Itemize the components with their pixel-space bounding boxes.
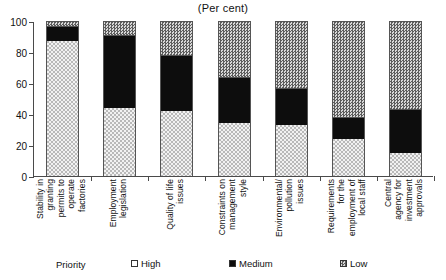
bar-segment-low (276, 21, 307, 88)
y-axis-tick (29, 115, 34, 116)
bar-segment-high (104, 108, 135, 176)
y-axis-tick (29, 84, 34, 85)
legend-swatch-high-icon (131, 260, 138, 267)
bar-segment-medium (333, 117, 364, 139)
y-axis-tick (29, 146, 34, 147)
bar-segment-high (47, 41, 78, 176)
bar-stack (218, 21, 251, 176)
x-axis-category-label-line: Constraints on (218, 179, 228, 235)
legend-label-medium: Medium (239, 258, 273, 269)
y-axis-tick-label: 100 (10, 17, 27, 28)
bar-segment-low (47, 21, 78, 26)
legend-title: Priority (56, 259, 86, 270)
bar-segment-low (219, 21, 250, 77)
bar-stack (160, 21, 193, 176)
bar-stack (46, 21, 79, 176)
x-axis-category-label-line: Quality of life (166, 179, 176, 230)
bar-segment-medium (219, 77, 250, 124)
bar-segment-low (333, 21, 364, 117)
legend-item-medium: Medium (229, 258, 273, 269)
x-axis-category-label-line: management (228, 179, 238, 230)
bar-segment-medium (104, 35, 135, 108)
y-axis-tick-label: 60 (16, 79, 27, 90)
x-axis-category-label-line: investment (405, 179, 415, 221)
bar-segment-low (104, 21, 135, 35)
y-axis-tick (29, 53, 34, 54)
x-axis-category-label-line: for the (337, 179, 347, 204)
bar-segment-high (390, 153, 421, 176)
bar-segment-medium (390, 109, 421, 152)
bar-stack (275, 21, 308, 176)
bar-segment-high (333, 139, 364, 176)
legend-item-low: Low (340, 258, 367, 269)
bar-segment-low (161, 21, 192, 55)
x-axis-category-label-line: local staff (358, 179, 368, 216)
bar-segment-medium (47, 26, 78, 42)
x-axis-category-label-line: Central (384, 179, 394, 207)
x-axis-category-label-line: Requirements (327, 179, 337, 233)
bar-stack (332, 21, 365, 176)
bar-segment-high (161, 111, 192, 176)
y-axis-tick (29, 177, 34, 178)
x-axis-category-label-line: legislation (119, 179, 129, 218)
x-axis-category-label: Quality of lifeissues (147, 179, 204, 251)
x-axis-category-label-line: Stability in (36, 179, 46, 219)
x-axis-category-label-line: Employment (109, 179, 119, 227)
plot-inner: 020406080100 (34, 22, 433, 176)
bar-segment-high (276, 125, 307, 176)
x-axis-category-label-line: approvals (415, 179, 425, 217)
legend-label-low: Low (350, 258, 367, 269)
chart-legend: Priority High Medium Low (0, 256, 446, 274)
legend-label-high: High (141, 258, 161, 269)
y-axis-tick-label: 80 (16, 48, 27, 59)
bar-segment-medium (276, 88, 307, 125)
x-axis-category-label-line: agency for (394, 179, 404, 220)
legend-swatch-medium-icon (229, 260, 236, 267)
chart-title: (Per cent) (0, 2, 446, 14)
x-axis-category-label-line: factories (78, 179, 88, 212)
x-axis-category-label: Employmentlegislation (90, 179, 147, 251)
x-axis-category-label-line: Environmental/ (275, 179, 285, 237)
y-axis-tick-label: 0 (21, 172, 27, 183)
x-axis-category-label: Stability ingrantingpermits tooperatefac… (33, 179, 90, 251)
bar-segment-high (219, 123, 250, 176)
x-axis-category-label-line: employment of (348, 179, 358, 236)
stacked-bar-chart: (Per cent) 020406080100 Stability ingran… (0, 0, 446, 280)
x-axis-category-label-line: issues (296, 179, 306, 204)
x-axis-category-label-line: style (239, 179, 249, 197)
x-axis-category-label-line: pollution (285, 179, 295, 212)
y-axis-tick-label: 40 (16, 110, 27, 121)
x-axis-category-label: Centralagency forinvestmentapprovals (376, 179, 433, 251)
legend-item-high: High (131, 258, 161, 269)
x-axis-category-label-line: granting (46, 179, 56, 211)
y-axis-tick-label: 20 (16, 141, 27, 152)
x-axis-category-label-line: permits to (57, 179, 67, 217)
plot-area: 020406080100 (33, 22, 433, 177)
bar-stack (103, 21, 136, 176)
x-axis-category-label: Constraints onmanagementstyle (204, 179, 261, 251)
bar-segment-low (390, 21, 421, 109)
y-axis-tick (29, 22, 34, 23)
x-axis-category-label: Requirementsfor theemployment oflocal st… (319, 179, 376, 251)
bar-stack (389, 21, 422, 176)
x-axis-category-label: Environmental/pollutionissues (262, 179, 319, 251)
x-axis-category-label-line: operate (67, 179, 77, 209)
bar-segment-medium (161, 55, 192, 111)
x-axis-category-label-line: issues (176, 179, 186, 204)
x-axis-tick (434, 176, 435, 181)
legend-swatch-low-icon (340, 260, 347, 267)
